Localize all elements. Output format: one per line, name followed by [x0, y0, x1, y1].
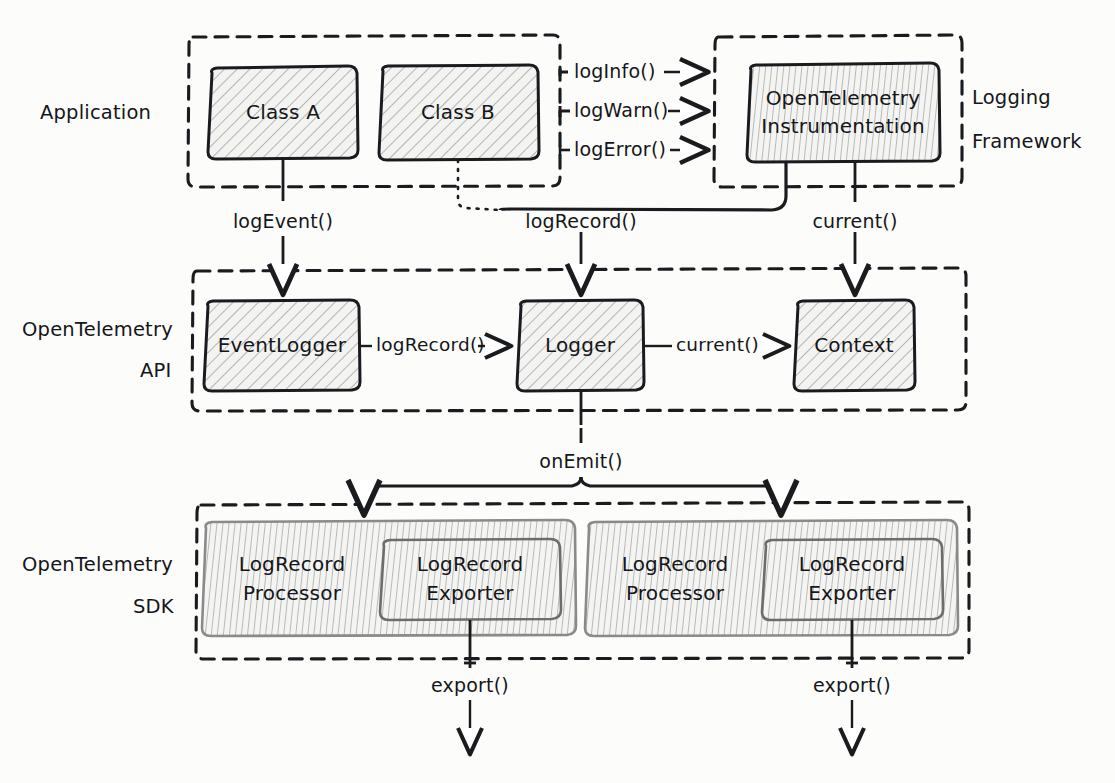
edge-label-current-api: current()	[676, 334, 759, 355]
box-label-exporter-left-line2: Exporter	[426, 581, 514, 605]
container-label-application: Application	[40, 101, 151, 124]
architecture-diagram: Application Logging Framework OpenTeleme…	[0, 0, 1115, 783]
edge-label-log-error: logError()	[574, 138, 666, 160]
box-label-logger: Logger	[545, 333, 616, 357]
container-label-otel-api-line2: API	[140, 359, 171, 382]
box-label-class-a: Class A	[246, 100, 320, 124]
box-label-event-logger: EventLogger	[218, 333, 347, 357]
box-logrecord-exporter-left[interactable]: LogRecord Exporter	[380, 539, 561, 620]
box-label-exporter-right-line2: Exporter	[808, 581, 896, 605]
box-logger[interactable]: Logger	[517, 300, 644, 391]
edge-label-on-emit: onEmit()	[539, 450, 622, 472]
box-class-b[interactable]: Class B	[379, 65, 539, 160]
box-label-processor-right-line2: Processor	[626, 581, 725, 605]
box-label-processor-right-line1: LogRecord	[622, 552, 729, 576]
box-label-otel-instrumentation-line1: OpenTelemetry	[766, 86, 921, 110]
box-label-class-b: Class B	[421, 100, 495, 124]
box-label-context: Context	[814, 333, 894, 357]
container-label-otel-sdk-line2: SDK	[133, 595, 175, 618]
box-context[interactable]: Context	[794, 300, 915, 391]
box-label-processor-left-line1: LogRecord	[239, 552, 346, 576]
edge-label-current-from-instrumentation: current()	[812, 210, 897, 232]
container-label-logging-framework-line2: Framework	[972, 130, 1082, 153]
box-logrecord-exporter-right[interactable]: LogRecord Exporter	[762, 539, 943, 620]
box-event-logger[interactable]: EventLogger	[204, 300, 360, 391]
box-label-exporter-right-line1: LogRecord	[799, 552, 906, 576]
box-label-processor-left-line2: Processor	[243, 581, 342, 605]
box-otel-instrumentation[interactable]: OpenTelemetry Instrumentation	[747, 63, 940, 162]
diagram-canvas: Application Logging Framework OpenTeleme…	[0, 0, 1115, 783]
edge-label-log-info: logInfo()	[574, 60, 656, 82]
container-label-otel-sdk-line1: OpenTelemetry	[22, 553, 173, 576]
edge-label-export-right: export()	[813, 674, 891, 696]
edge-label-log-record-api: logRecord()	[376, 334, 485, 355]
box-label-exporter-left-line1: LogRecord	[417, 552, 524, 576]
box-label-otel-instrumentation-line2: Instrumentation	[761, 114, 925, 138]
container-label-logging-framework-line1: Logging	[972, 86, 1051, 109]
container-label-otel-api-line1: OpenTelemetry	[22, 318, 173, 341]
edge-label-export-left: export()	[431, 674, 509, 696]
edge-label-log-event: logEvent()	[233, 210, 333, 232]
edge-label-log-record-from-instrumentation: logRecord()	[525, 210, 637, 232]
edge-label-log-warn: logWarn()	[574, 99, 668, 121]
box-class-a[interactable]: Class A	[208, 66, 358, 159]
